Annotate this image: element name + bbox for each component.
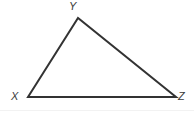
bottom-edge-artifact (0, 110, 194, 111)
triangle-polygon (28, 18, 176, 97)
triangle-shape (0, 0, 194, 114)
vertex-label-x: X (11, 91, 18, 102)
vertex-label-z: Z (178, 91, 185, 102)
vertex-label-y: Y (69, 1, 76, 12)
geometry-figure-canvas: Y X Z (0, 0, 194, 114)
